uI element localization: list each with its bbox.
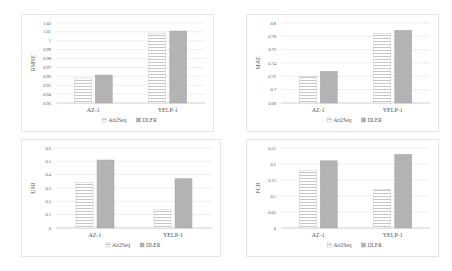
y-tick-label: 0.1 (45, 212, 51, 217)
legend-swatch-dler (362, 118, 366, 122)
y-axis-label: MAE (255, 56, 261, 70)
y-axis-label: FCR (255, 182, 261, 193)
x-tick-label: YELP-1 (383, 107, 403, 113)
bar-dler-az-1 (97, 160, 114, 228)
bar-att2seq-yelp-1 (154, 209, 171, 228)
y-tick-label: 0.5 (45, 159, 51, 164)
bar-att2seq-az-1 (76, 183, 93, 228)
chart-fcr: 00.050.10.150.20.25FCRAZ-1YELP-1Att2SeqD… (247, 140, 438, 256)
chart-panel-fcr: 00.050.10.150.20.25FCRAZ-1YELP-1Att2SeqD… (246, 139, 439, 257)
y-tick-label: 0.78 (268, 34, 277, 39)
y-tick-label: 1.02 (43, 21, 51, 26)
x-tick-label: AZ-1 (312, 232, 325, 238)
y-tick-label: 0.3 (45, 186, 51, 191)
legend-swatch-att2seq (328, 118, 332, 122)
y-tick-label: 0.98 (43, 56, 52, 61)
bar-att2seq-az-1 (299, 170, 316, 228)
y-tick-label: 0.72 (268, 74, 276, 79)
bar-att2seq-az-1 (74, 78, 91, 103)
chart-usr: 00.10.20.30.40.50.6USRAZ-1YELP-1Att2SeqD… (22, 140, 220, 256)
y-tick-label: 0.2 (270, 162, 276, 167)
chart-rmse: 0.930.940.950.960.970.980.9911.011.02RMS… (22, 15, 213, 131)
y-tick-label: 0.97 (43, 65, 52, 70)
y-tick-label: 0 (274, 226, 277, 231)
y-tick-label: 0.8 (270, 21, 276, 26)
y-tick-label: 0.2 (45, 199, 51, 204)
x-tick-label: YELP-1 (158, 107, 178, 113)
y-axis-label: RMSE (30, 54, 36, 71)
y-tick-label: 0.76 (268, 47, 277, 52)
y-tick-label: 0.99 (43, 47, 52, 52)
legend-label-dler: DLER (368, 117, 383, 123)
legend-swatch-dler (137, 118, 141, 122)
y-tick-label: 0.6 (45, 146, 51, 151)
legend-label-dler: DLER (143, 117, 158, 123)
y-tick-label: 0.15 (268, 178, 277, 183)
x-tick-label: YELP-1 (383, 232, 403, 238)
y-tick-label: 0.94 (43, 92, 52, 97)
x-tick-label: YELP-1 (163, 232, 183, 238)
bar-att2seq-yelp-1 (374, 190, 391, 228)
legend-swatch-att2seq (328, 243, 332, 247)
legend-label-att2seq: Att2Seq (334, 242, 352, 248)
bar-att2seq-yelp-1 (374, 34, 391, 103)
bar-dler-az-1 (320, 161, 337, 228)
bar-att2seq-az-1 (299, 77, 316, 103)
legend-label-att2seq: Att2Seq (334, 117, 352, 123)
x-tick-label: AZ-1 (87, 107, 100, 113)
bar-dler-az-1 (95, 75, 112, 103)
legend-label-att2seq: Att2Seq (109, 117, 127, 123)
bar-dler-yelp-1 (175, 179, 192, 228)
y-axis-label: USR (30, 182, 36, 194)
legend-swatch-att2seq (103, 118, 107, 122)
chart-panel-usr: 00.10.20.30.40.50.6USRAZ-1YELP-1Att2SeqD… (21, 139, 221, 257)
chart-panel-rmse: 0.930.940.950.960.970.980.9911.011.02RMS… (21, 14, 214, 132)
y-tick-label: 0.95 (43, 83, 52, 88)
y-tick-label: 0.4 (45, 172, 51, 177)
bar-dler-az-1 (320, 71, 337, 103)
legend-swatch-att2seq (106, 243, 110, 247)
bar-dler-yelp-1 (170, 31, 187, 103)
y-tick-label: 0.7 (270, 87, 276, 92)
x-tick-label: AZ-1 (89, 232, 102, 238)
legend-label-dler: DLER (368, 242, 383, 248)
y-tick-label: 0.96 (43, 74, 52, 79)
y-tick-label: 0.1 (270, 194, 276, 199)
legend-swatch-dler (140, 243, 144, 247)
y-tick-label: 0.05 (268, 210, 277, 215)
chart-mae: 0.680.70.720.740.760.780.8MAEAZ-1YELP-1A… (247, 15, 438, 131)
y-tick-label: 0.93 (43, 101, 52, 106)
bar-dler-yelp-1 (395, 30, 412, 103)
y-tick-label: 1.01 (43, 29, 51, 34)
bar-dler-yelp-1 (395, 154, 412, 228)
bar-att2seq-yelp-1 (149, 33, 166, 103)
y-tick-label: 0.74 (268, 61, 277, 66)
x-tick-label: AZ-1 (312, 107, 325, 113)
y-tick-label: 0.68 (268, 101, 277, 106)
legend-label-dler: DLER (146, 242, 161, 248)
y-tick-label: 0.25 (268, 146, 277, 151)
legend-swatch-dler (362, 243, 366, 247)
legend-label-att2seq: Att2Seq (112, 242, 130, 248)
y-tick-label: 1 (49, 38, 51, 43)
chart-panel-mae: 0.680.70.720.740.760.780.8MAEAZ-1YELP-1A… (246, 14, 439, 132)
y-tick-label: 0 (49, 226, 52, 231)
